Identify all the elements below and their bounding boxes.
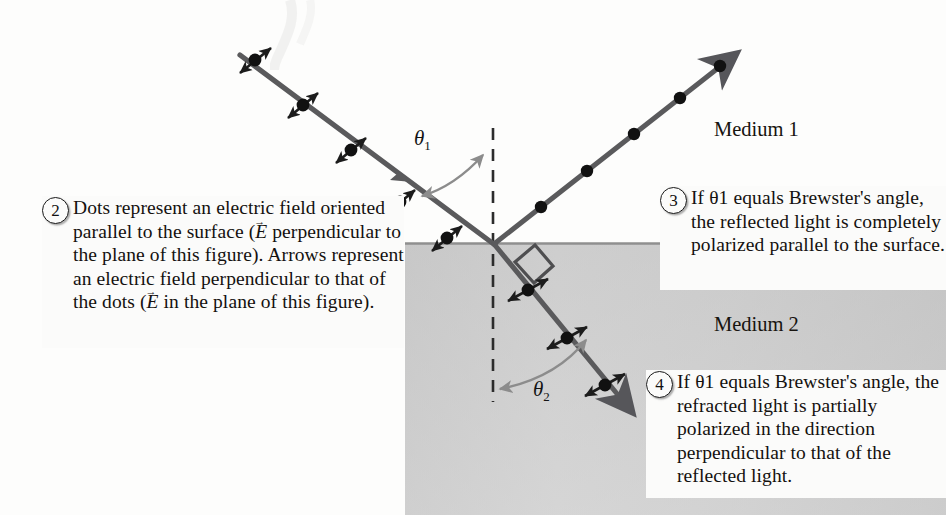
callout-2: 2 Dots represent an electric field orien… — [42, 196, 404, 348]
e-vector-symbol-1: E — [255, 221, 267, 242]
e-vector-symbol-2: E — [147, 291, 159, 312]
callout-4: 4 If θ1 equals Brewster's angle, the ref… — [646, 370, 946, 498]
medium-2-label: Medium 2 — [714, 313, 799, 336]
theta-1-label: θ1 — [414, 126, 431, 154]
theta-2-label: θ2 — [533, 377, 550, 405]
callout-4-text: If θ1 equals Brewster's angle, the refra… — [646, 370, 946, 488]
theta-1-subscript: 1 — [424, 138, 431, 153]
theta-2-symbol: θ — [533, 377, 543, 401]
theta-1-arc — [422, 155, 483, 196]
callout-4-badge: 4 — [646, 371, 673, 398]
medium-1-label: Medium 1 — [714, 118, 799, 141]
figure-canvas: Medium 1 Medium 2 θ1 θ2 2 Dots represent… — [0, 0, 946, 515]
theta-1-symbol: θ — [414, 126, 424, 150]
callout-3: 3 If θ1 equals Brewster's angle, the ref… — [660, 186, 946, 290]
callout-3-text: If θ1 equals Brewster's angle, the refle… — [660, 186, 946, 257]
theta-2-subscript: 2 — [543, 389, 550, 404]
callout-3-badge: 3 — [660, 187, 687, 214]
callout-2-text: Dots represent an electric field oriente… — [42, 196, 404, 314]
callout-2-badge: 2 — [42, 197, 69, 224]
